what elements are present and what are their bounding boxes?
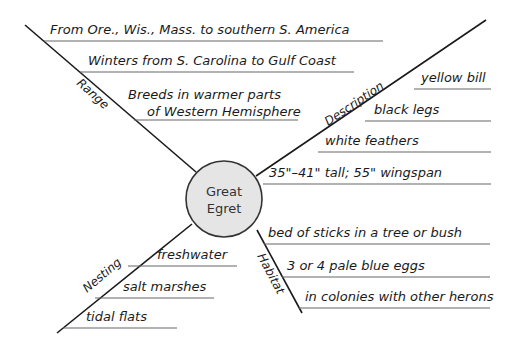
nesting-label: Nesting xyxy=(80,255,124,295)
nesting-item-1: freshwater xyxy=(157,247,229,262)
range-item-3b: of Western Hemisphere xyxy=(147,104,301,119)
branch-habitat: bed of sticks in a tree or bush 3 or 4 p… xyxy=(254,225,493,313)
center-title-line1: Great xyxy=(206,184,242,199)
description-item-4: 35"–41" tall; 55" wingspan xyxy=(269,165,442,180)
center-node: Great Egret xyxy=(186,161,262,237)
branch-range: From Ore., Wis., Mass. to southern S. Am… xyxy=(25,22,383,172)
branch-description: yellow bill black legs white feathers 35… xyxy=(256,20,491,184)
range-item-1: From Ore., Wis., Mass. to southern S. Am… xyxy=(50,22,350,37)
habitat-item-1: bed of sticks in a tree or bush xyxy=(268,225,462,240)
center-title-line2: Egret xyxy=(207,201,242,216)
habitat-item-3: in colonies with other herons xyxy=(305,289,494,304)
description-item-2: black legs xyxy=(374,102,440,117)
description-item-1: yellow bill xyxy=(420,70,486,85)
center-circle xyxy=(186,161,262,237)
nesting-item-3: tidal flats xyxy=(86,309,147,324)
habitat-label: Habitat xyxy=(254,251,288,298)
nesting-item-2: salt marshes xyxy=(123,279,207,294)
spider-map-diagram: From Ore., Wis., Mass. to southern S. Am… xyxy=(0,0,517,346)
range-item-3a: Breeds in warmer parts xyxy=(128,87,281,102)
range-item-2: Winters from S. Carolina to Gulf Coast xyxy=(88,53,337,68)
habitat-item-2: 3 or 4 pale blue eggs xyxy=(287,258,425,273)
description-item-3: white feathers xyxy=(325,133,419,148)
branch-nesting: freshwater salt marshes tidal flats Nest… xyxy=(57,224,237,333)
